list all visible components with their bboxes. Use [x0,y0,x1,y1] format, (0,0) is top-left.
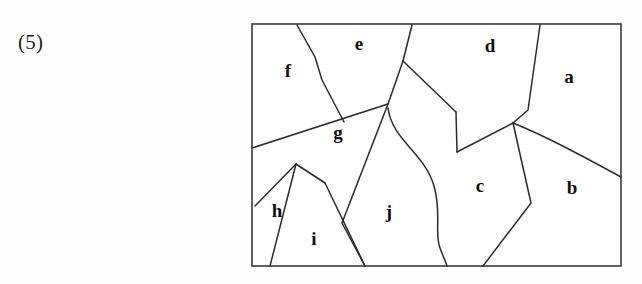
region-label-c: c [476,175,484,196]
figure-page: (5) [0,0,642,284]
edge-d-notch-down [456,112,457,152]
map-figure-container: a b c d e f g h i j [0,0,642,284]
region-label-i: i [311,228,316,249]
region-label-a: a [564,66,574,87]
region-label-b: b [567,177,578,198]
region-label-d: d [485,35,496,56]
region-label-e: e [355,33,363,54]
region-label-j: j [385,201,392,222]
planar-map-svg: a b c d e f g h i j [0,0,642,284]
map-frame-border [252,24,621,266]
region-label-f: f [285,60,292,81]
region-label-g: g [333,122,343,143]
region-label-h: h [272,200,283,221]
